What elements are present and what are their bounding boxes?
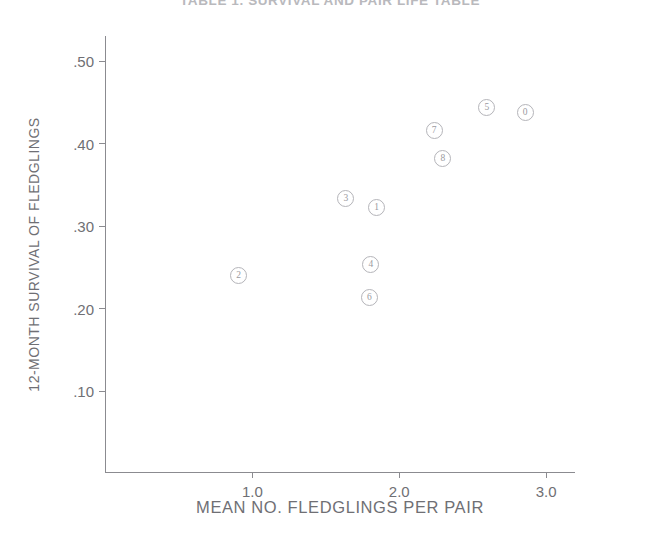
data-point-7: 7 xyxy=(426,122,443,139)
y-tick-label: .30 xyxy=(73,218,94,235)
y-axis-spine xyxy=(105,36,106,473)
y-tick: .20 xyxy=(99,308,105,309)
y-tick-label: .10 xyxy=(73,383,94,400)
y-tick: .10 xyxy=(99,391,105,392)
y-tick-label: .40 xyxy=(73,135,94,152)
y-tick-label: .50 xyxy=(73,53,94,70)
x-axis-spine xyxy=(105,472,575,473)
y-axis-title: 12-MONTH SURVIVAL OF FLEDGLINGS xyxy=(24,36,44,473)
scatter-plot-figure: TABLE 1. SURVIVAL AND PAIR LIFE TABLE 12… xyxy=(0,0,660,552)
data-point-6: 6 xyxy=(361,289,378,306)
x-tick: 2.0 xyxy=(399,473,400,478)
data-point-8: 8 xyxy=(434,150,451,167)
figure-title-clipped: TABLE 1. SURVIVAL AND PAIR LIFE TABLE xyxy=(0,0,660,9)
y-tick-label: .20 xyxy=(73,300,94,317)
data-point-5: 5 xyxy=(478,99,495,116)
data-point-2: 2 xyxy=(230,267,247,284)
figure-title: TABLE 1. SURVIVAL AND PAIR LIFE TABLE xyxy=(0,0,660,8)
plot-area: .10.20.30.40.50 1.02.03.0 012345678 xyxy=(105,36,575,473)
data-point-0: 0 xyxy=(517,104,534,121)
x-axis-title: MEAN NO. FLEDGLINGS PER PAIR xyxy=(105,498,575,517)
data-point-1: 1 xyxy=(368,199,385,216)
data-point-3: 3 xyxy=(337,190,354,207)
y-tick: .50 xyxy=(99,61,105,62)
y-tick: .30 xyxy=(99,226,105,227)
x-tick: 1.0 xyxy=(252,473,253,478)
x-tick: 3.0 xyxy=(546,473,547,478)
y-tick: .40 xyxy=(99,143,105,144)
data-point-4: 4 xyxy=(362,256,379,273)
